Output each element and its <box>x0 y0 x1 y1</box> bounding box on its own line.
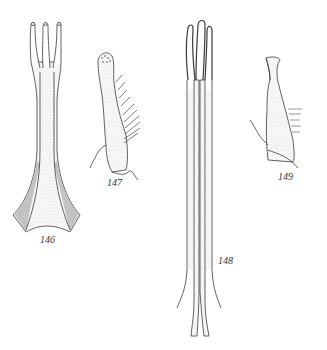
figure-label-148: 148 <box>218 256 233 266</box>
figure-147 <box>90 53 140 180</box>
figure-148 <box>177 21 221 337</box>
figure-label-147: 147 <box>107 178 122 188</box>
figure-label-149: 149 <box>278 172 293 182</box>
figure-146 <box>13 22 80 232</box>
figure-149 <box>250 57 302 168</box>
figure-label-146: 146 <box>40 235 55 245</box>
